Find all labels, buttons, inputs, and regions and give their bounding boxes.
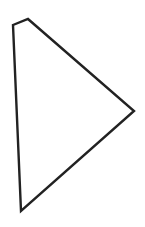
diagram-canvas (0, 0, 145, 227)
diagram-svg (0, 0, 145, 227)
quadrilateral-shape (13, 19, 134, 211)
